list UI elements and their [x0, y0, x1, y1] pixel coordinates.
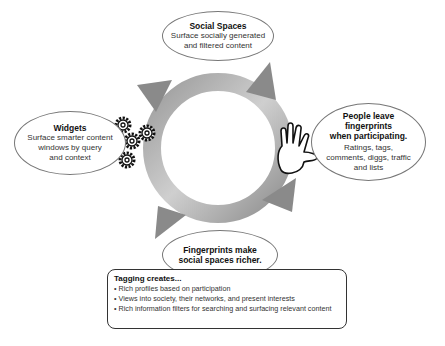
tagging-heading: Tagging creates...	[114, 273, 340, 284]
node-people-fingerprints: People leave fingerprints when participa…	[311, 103, 426, 181]
tagging-creates-box: Tagging creates... • Rich profiles based…	[107, 269, 347, 329]
tagging-item: • Rich profiles based on participation	[114, 284, 340, 294]
node-widgets: Widgets Surface smarter content windows …	[14, 111, 126, 175]
tagging-item: • Views into society, their networks, an…	[114, 294, 340, 304]
tagging-item: • Rich information filters for searching…	[114, 304, 340, 314]
social-spaces-title: Social Spaces	[189, 21, 246, 31]
node-social-spaces: Social Spaces Surface socially generated…	[162, 11, 274, 61]
